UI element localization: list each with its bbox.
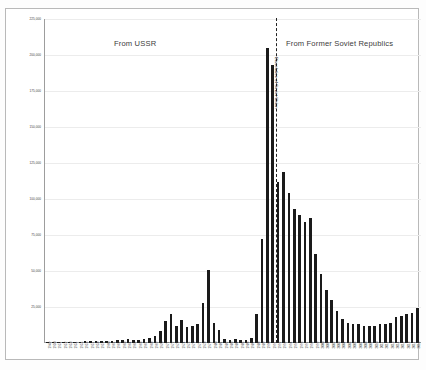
bar-series: 1949195019511952195319541955195619571958… (44, 19, 421, 343)
y-axis-tick-label: 175,000 (29, 89, 41, 93)
chart-frame: From USSR From Former Soviet Republics 2… (5, 8, 419, 360)
bar (170, 314, 173, 343)
bar (298, 215, 301, 343)
bar (395, 317, 398, 343)
bar (288, 193, 291, 343)
y-axis-tick-label: 100,000 (29, 197, 41, 201)
bar-item: 2018 (415, 19, 420, 343)
bar (180, 320, 183, 343)
x-axis-tick-label: 2018 (417, 342, 421, 349)
dissolution-divider-line: Dissolution of Soviet Union (276, 18, 277, 343)
bar (352, 324, 355, 343)
bar (389, 323, 392, 343)
dissolution-annotation-label: Dissolution of Soviet Union (274, 57, 279, 109)
bar (336, 311, 339, 343)
bar (304, 222, 307, 343)
bar (416, 308, 419, 343)
bar (411, 313, 414, 343)
chart-figure: From USSR From Former Soviet Republics 2… (0, 0, 426, 370)
bar (266, 48, 269, 343)
y-axis-tick-label: 75,000 (31, 233, 41, 237)
bar (357, 324, 360, 343)
y-axis-tick-label: 125,000 (29, 161, 41, 165)
y-axis-tick-label: 25,000 (31, 305, 41, 309)
bar (282, 172, 285, 343)
plot-area: 225,000200,000175,000150,000125,000100,0… (44, 19, 421, 343)
bar (384, 324, 387, 343)
bar (255, 314, 258, 343)
bar (293, 209, 296, 343)
bar (309, 218, 312, 343)
y-axis-tick-label: 150,000 (29, 125, 41, 129)
bar (314, 254, 317, 343)
y-axis-tick-label: 50,000 (31, 269, 41, 273)
bar (330, 300, 333, 343)
bar (164, 321, 167, 343)
bar (325, 290, 328, 343)
bar (202, 303, 205, 343)
bar (379, 324, 382, 343)
bar (196, 324, 199, 343)
bar (320, 274, 323, 343)
bar (207, 270, 210, 343)
bar (405, 314, 408, 343)
bar (213, 323, 216, 343)
y-axis-tick-label: 225,000 (29, 17, 41, 21)
bar (277, 182, 280, 343)
bar (261, 239, 264, 343)
y-axis-tick-label: 200,000 (29, 53, 41, 57)
bar (347, 323, 350, 343)
bar (400, 316, 403, 343)
bar (341, 319, 344, 343)
